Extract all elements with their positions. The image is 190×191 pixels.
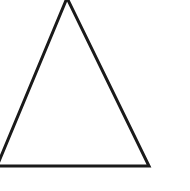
triangle-figure-svg (0, 0, 190, 191)
diagram-canvas (0, 0, 190, 191)
